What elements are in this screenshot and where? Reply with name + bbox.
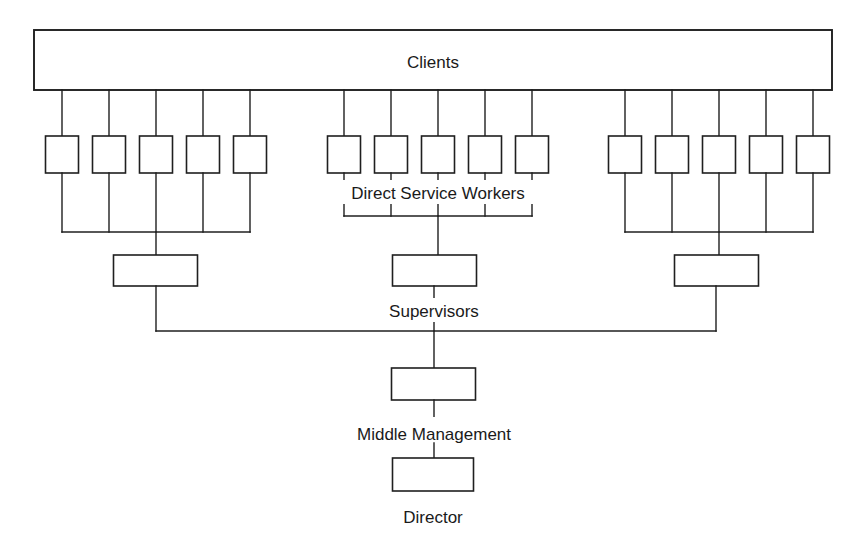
middle-management-label: Middle Management [357,425,511,444]
clients-label: Clients [407,53,459,72]
worker-box-r3[interactable] [703,136,736,173]
worker-box-r5[interactable] [797,136,830,173]
supervisor-box-middle[interactable] [393,255,477,286]
worker-box-r2[interactable] [656,136,689,173]
worker-box-m3[interactable] [422,136,455,173]
worker-box-m4[interactable] [469,136,502,173]
worker-box-l2[interactable] [93,136,126,173]
org-chart-diagram: Clients [0,0,864,550]
org-chart-canvas: Clients [0,0,864,550]
supervisor-box-right[interactable] [675,255,759,286]
direct-service-workers-label: Direct Service Workers [351,184,525,203]
director-label: Director [403,508,463,527]
worker-box-l5[interactable] [234,136,267,173]
supervisors-label: Supervisors [389,302,479,321]
supervisor-box-left[interactable] [114,255,198,286]
worker-box-m5[interactable] [516,136,549,173]
worker-box-l1[interactable] [46,136,79,173]
worker-box-l3[interactable] [140,136,173,173]
worker-box-m2[interactable] [375,136,408,173]
director-box[interactable] [393,458,474,491]
middle-management-box[interactable] [392,368,476,400]
worker-box-r1[interactable] [609,136,642,173]
worker-box-m1[interactable] [328,136,361,173]
worker-box-l4[interactable] [187,136,220,173]
worker-box-r4[interactable] [750,136,783,173]
